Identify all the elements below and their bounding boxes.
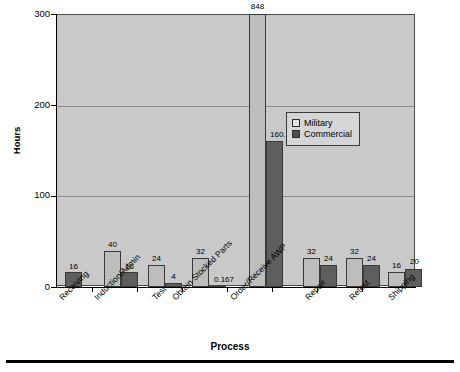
y-axis-title: Hours [11,111,22,171]
legend-label-military: Military [304,118,333,128]
y-tick-100 [51,196,56,197]
y-tick-300 [51,14,56,15]
legend-swatch-commercial-icon [292,130,300,138]
bar-label-induction-admin-military: 40 [96,240,129,249]
x-axis-title: Process [0,341,460,352]
bar-label-obtain-stocked-parts-commercial: 0.167 [204,275,244,284]
chart-legend: Military Commercial [286,112,360,146]
gridline-100 [57,196,414,197]
gridline-200 [57,106,414,107]
y-tick-label-0: 0 [4,282,50,292]
bar-label-order-receive-awp-military: 848 [241,2,274,11]
legend-item-commercial: Commercial [292,129,352,139]
legend-item-military: Military [292,118,352,128]
y-axis-line [56,14,57,287]
y-tick-label-200: 200 [4,100,50,110]
bottom-divider [6,360,454,363]
bar-label-test-military: 24 [140,254,173,263]
legend-swatch-military-icon [292,119,300,127]
y-tick-200 [51,105,56,106]
bar-chart: 300 200 100 0 Hours 16 40 16 24 4 32 0.1… [0,0,460,372]
x-tick-4 [227,288,228,292]
x-tick-5 [272,288,273,292]
y-tick-label-100: 100 [4,190,50,200]
x-tick-1 [92,288,93,292]
bar-label-shipping-commercial: 20 [398,257,431,266]
x-tick-2 [137,288,138,292]
y-tick-label-300: 300 [4,9,50,19]
bar-order-receive-awp-military [249,14,266,287]
legend-label-commercial: Commercial [304,129,352,139]
